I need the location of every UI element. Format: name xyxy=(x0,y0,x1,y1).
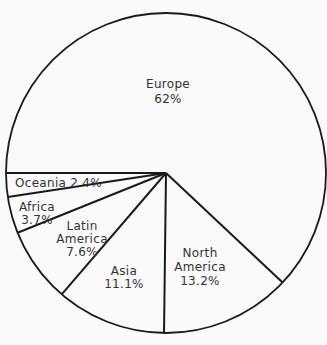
label-latin-america-value: 7.6% xyxy=(66,245,98,259)
label-africa-name: Africa xyxy=(19,200,55,214)
label-asia-name: Asia xyxy=(111,264,137,278)
label-africa-value: 3.7% xyxy=(21,213,53,227)
label-north-america: North America 13.2% xyxy=(174,246,226,288)
label-latin-america-line1: Latin xyxy=(66,219,97,233)
slice-dividers xyxy=(6,173,283,333)
label-latin-america: Latin America 7.6% xyxy=(56,219,108,259)
divider-after-asia xyxy=(164,173,166,333)
label-north-america-value: 13.2% xyxy=(180,274,220,288)
label-latin-america-line2: America xyxy=(56,232,108,246)
label-north-america-line1: North xyxy=(182,246,217,260)
label-asia: Asia 11.1% xyxy=(104,264,144,291)
label-europe: Europe 62% xyxy=(146,77,190,106)
label-asia-value: 11.1% xyxy=(104,277,144,291)
pie-chart: Europe 62% North America 13.2% Asia 11.1… xyxy=(0,0,327,345)
label-oceania: Oceania 2.4% xyxy=(15,176,102,190)
label-oceania: Oceania 2.4% xyxy=(15,176,102,190)
label-europe-value: 62% xyxy=(154,92,182,106)
label-africa: Africa 3.7% xyxy=(19,200,55,227)
label-north-america-line2: America xyxy=(174,260,226,274)
label-europe-name: Europe xyxy=(146,77,190,91)
